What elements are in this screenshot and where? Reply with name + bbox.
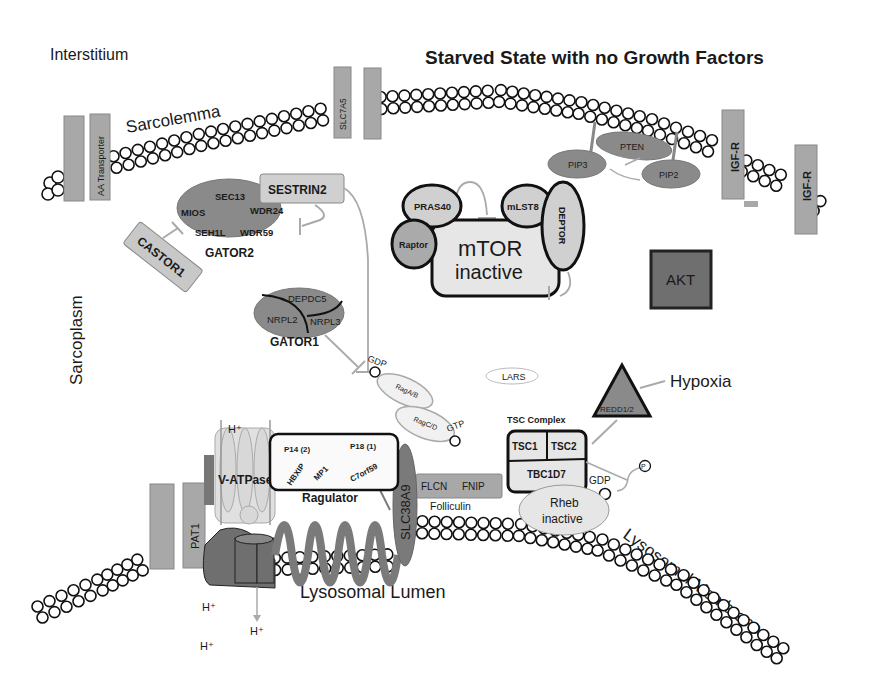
gator2-sec13: SEC13	[215, 191, 245, 202]
rheb-state-label: inactive	[542, 512, 583, 526]
slc38a9	[275, 525, 398, 583]
ragulator-label: Ragulator	[302, 491, 358, 505]
mtor-label: mTOR	[458, 236, 522, 261]
sestrin2-label: SESTRIN2	[268, 183, 327, 197]
flcn-label: FLCN	[421, 481, 447, 492]
tsc-complex-label: TSC Complex	[507, 415, 566, 425]
ragulator-p14: P14 (2)	[284, 445, 311, 454]
sestrin2-inhibition-line	[344, 188, 368, 372]
gator1-label: GATOR1	[270, 335, 319, 349]
igf-receptor-1-tab	[744, 201, 758, 207]
proton-top: H⁺	[228, 423, 242, 435]
gtp-bead	[450, 436, 460, 446]
rheb-label: Rheb	[550, 496, 579, 510]
pten-label: PTEN	[620, 142, 644, 152]
akt-label: AKT	[666, 271, 695, 288]
gdp-bead	[370, 367, 380, 377]
pat1-label: PAT1	[189, 523, 201, 549]
gator1-nrpl3: NRPL3	[310, 316, 341, 327]
gator2-seh1l: SEH1L	[195, 227, 226, 238]
v-atpase	[203, 420, 275, 588]
folliculin-label: Folliculin	[430, 500, 471, 512]
hypoxia-label: Hypoxia	[670, 372, 732, 391]
pip3-to-pip2-arrow	[610, 169, 640, 180]
ragulator-p18: P18 (1)	[350, 442, 377, 451]
transporter-block	[64, 116, 84, 201]
proton-lumen-3: H⁺	[200, 640, 214, 652]
mtor-state-label: inactive	[455, 261, 523, 283]
aa-transporter-label: AA Transporter	[96, 136, 106, 196]
rag-gtp-label: GTP	[445, 418, 466, 434]
sarcoplasm-label: Sarcoplasm	[67, 295, 86, 385]
gator1-depdc5: DEPDC5	[288, 293, 327, 304]
proton-lumen-2: H⁺	[250, 625, 264, 637]
slc38a9-label: SLC38A9	[398, 484, 413, 540]
deptor-label: DEPTOR	[557, 207, 567, 245]
lysosomal-lumen-label: Lysosomal Lumen	[300, 582, 445, 602]
v-atpase-label: V-ATPase	[218, 473, 273, 487]
tbc1d7-label: TBC1D7	[527, 469, 566, 480]
tsc2-label: TSC2	[551, 441, 577, 452]
pat1-block	[150, 484, 174, 569]
igf-receptor-2-label: IGF-R	[801, 171, 813, 201]
slc7a5-partner	[364, 68, 381, 139]
gator2-label: GATOR2	[205, 246, 254, 260]
gator2-mios: MIOS	[181, 207, 205, 218]
pras40-label: PRAS40	[414, 201, 451, 212]
raptor-label: Raptor	[399, 240, 428, 250]
rheb	[519, 485, 609, 535]
igf-receptor-1-label: IGF-R	[729, 142, 741, 172]
mtor-pathway-diagram: Interstitium Starved State with no Growt…	[0, 0, 870, 696]
mlst8-label: mLST8	[507, 201, 539, 212]
redd-to-tsc-arrow	[592, 420, 617, 444]
fnip-label: FNIP	[462, 481, 485, 492]
phosphate-label: P	[641, 463, 646, 470]
redd-label: REDD1/2	[600, 405, 634, 414]
pip2-label: PIP2	[659, 170, 679, 180]
gator2-wdr24: WDR24	[250, 205, 284, 216]
interstitium-label: Interstitium	[50, 46, 128, 63]
castor1: CASTOR1	[123, 221, 203, 292]
gator1-nrpl2: NRPL2	[267, 314, 298, 325]
proton-lumen-1: H⁺	[202, 601, 216, 613]
pip3-label: PIP3	[568, 160, 588, 170]
page-title: Starved State with no Growth Factors	[425, 47, 764, 68]
tsc1-label: TSC1	[512, 441, 538, 452]
slc7a5-label: SLC7A5	[338, 98, 348, 130]
rheb-gdp-label: GDP	[589, 475, 611, 486]
lars-label: LARS	[502, 372, 526, 382]
gator2-wdr59: WDR59	[240, 227, 273, 238]
